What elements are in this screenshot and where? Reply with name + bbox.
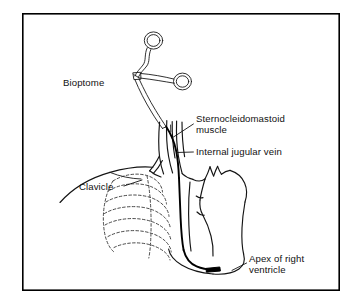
label-sternocleidomastoid-line-1: Sternocleidomastoid: [196, 113, 285, 124]
label-sternocleidomastoid-line-2: muscle: [196, 124, 227, 135]
label-bioptome-line-1: Bioptome: [63, 77, 104, 88]
label-apex-line-1: Apex of right: [249, 253, 304, 264]
figure-root: Bioptome Sternocleidomastoid muscle Inte…: [0, 0, 363, 306]
label-bioptome: Bioptome: [63, 77, 104, 88]
label-clavicle: Clavicle: [79, 181, 113, 192]
anatomical-illustration: Bioptome Sternocleidomastoid muscle Inte…: [0, 0, 363, 306]
label-internal-jugular-vein: Internal jugular vein: [196, 146, 282, 157]
label-apex-line-2: ventricle: [249, 264, 286, 275]
catheter-tip: [206, 267, 220, 272]
label-clavicle-line-1: Clavicle: [79, 181, 113, 192]
leader-internal-jugular: [177, 152, 194, 153]
label-internal-jugular-vein-line-1: Internal jugular vein: [196, 146, 282, 157]
